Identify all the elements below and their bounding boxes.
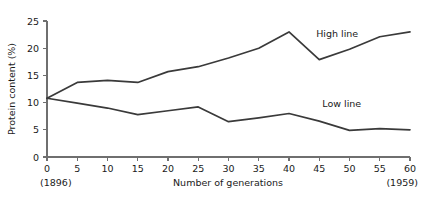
x-tick-label: 50 <box>343 163 355 174</box>
y-tick-label: 15 <box>27 70 39 81</box>
x-tick-label: 40 <box>283 163 295 174</box>
start-year-label: (1896) <box>40 177 72 188</box>
x-tick-label: 0 <box>44 163 50 174</box>
annotation-low-line: Low line <box>322 98 361 109</box>
x-tick-label: 20 <box>162 163 174 174</box>
x-tick-label: 25 <box>192 163 204 174</box>
y-axis-ticks: 0510152025 <box>27 16 47 163</box>
x-tick-label: 35 <box>253 163 265 174</box>
y-tick-label: 20 <box>27 43 39 54</box>
x-tick-label: 15 <box>132 163 144 174</box>
annotation-high-line: High line <box>316 28 358 39</box>
series-annotations-group: High lineLow line <box>316 28 361 109</box>
series-line-high-line <box>47 32 410 98</box>
chart-axes <box>47 21 410 157</box>
x-axis-title: Number of generations <box>173 177 283 188</box>
x-tick-label: 55 <box>374 163 386 174</box>
x-tick-label: 5 <box>74 163 80 174</box>
y-tick-label: 5 <box>33 124 39 135</box>
chart-canvas: 0510152025 051015202530354045505560 Prot… <box>0 0 425 201</box>
data-series-group <box>47 32 410 130</box>
x-tick-label: 45 <box>313 163 325 174</box>
x-tick-label: 10 <box>101 163 113 174</box>
end-year-label: (1959) <box>386 177 418 188</box>
x-axis-ticks: 051015202530354045505560 <box>44 157 416 174</box>
y-tick-label: 25 <box>27 16 39 27</box>
y-axis-title: Protein content (%) <box>6 43 17 135</box>
protein-content-line-chart: 0510152025 051015202530354045505560 Prot… <box>0 0 425 201</box>
y-tick-label: 10 <box>27 97 39 108</box>
y-tick-label: 0 <box>33 152 39 163</box>
x-tick-label: 60 <box>404 163 416 174</box>
x-tick-label: 30 <box>222 163 234 174</box>
